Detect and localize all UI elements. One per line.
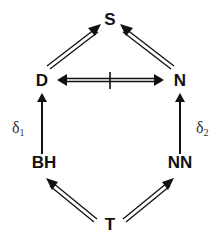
edge-d-to-s	[47, 24, 101, 69]
edge-nn-to-n	[175, 93, 185, 154]
node-s: S	[104, 10, 115, 29]
arrowhead-left-icon	[57, 74, 67, 86]
node-bh: BH	[32, 153, 57, 172]
edge-n-to-s	[120, 24, 174, 69]
diagram-canvas: S D N BH NN T δ1 δ2	[0, 0, 220, 239]
arrowhead-icon	[175, 93, 185, 102]
edge-d-n-blocked	[57, 72, 164, 89]
edge-t-to-nn	[123, 178, 174, 222]
edge-bh-to-d	[37, 93, 47, 154]
arrowhead-right-icon	[154, 74, 164, 86]
arrowhead-icon	[162, 178, 174, 190]
node-n: N	[174, 71, 186, 90]
label-delta1: δ1	[12, 119, 25, 138]
arrowhead-icon	[88, 24, 101, 36]
arrowhead-icon	[37, 93, 47, 102]
arrowhead-icon	[120, 24, 133, 36]
node-d: D	[36, 71, 48, 90]
arrowhead-icon	[46, 178, 58, 190]
node-nn: NN	[168, 153, 193, 172]
edge-t-to-bh	[46, 178, 97, 222]
node-t: T	[105, 215, 116, 234]
label-delta2: δ2	[196, 119, 209, 138]
